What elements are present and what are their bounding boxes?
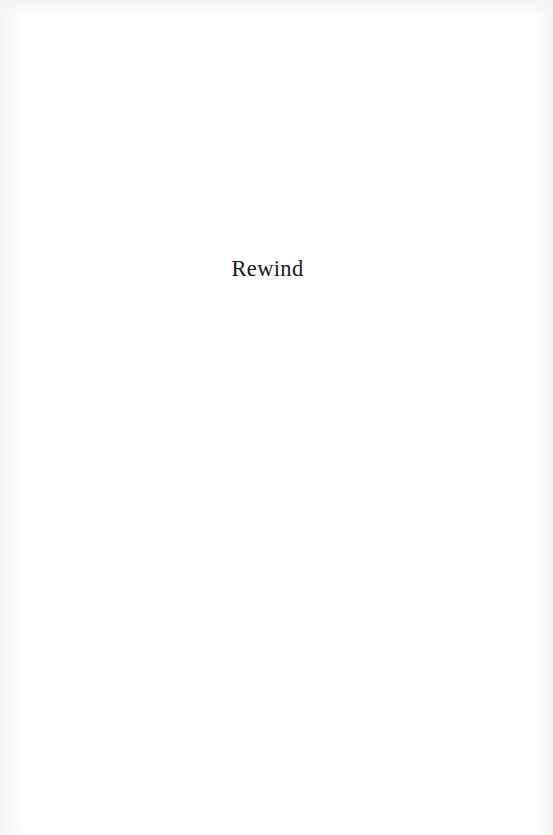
section-title: Rewind [231, 258, 303, 281]
section-title-block: Rewind [0, 258, 553, 281]
scanned-book-page: Rewind [0, 0, 553, 835]
